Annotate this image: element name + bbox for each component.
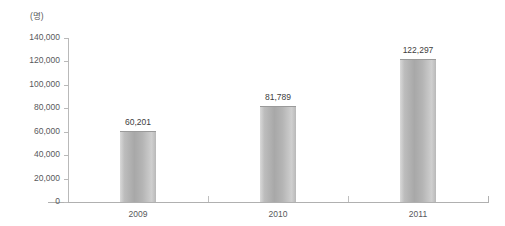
y-axis-tick-label: 40,000 [0, 149, 60, 159]
bar-value-label: 60,201 [98, 117, 178, 127]
y-axis-tick-label: 60,000 [0, 126, 60, 136]
y-axis-tick-label: 140,000 [0, 32, 60, 42]
y-axis-tick-label: 20,000 [0, 173, 60, 183]
bar-chart: (명) 020,00040,00060,00080,000100,000120,… [0, 0, 505, 226]
x-axis-line [48, 202, 488, 203]
bar [400, 59, 436, 202]
x-axis-category-label: 2011 [378, 209, 458, 219]
y-axis-tick-mark [64, 132, 68, 133]
x-axis-category-label: 2009 [98, 209, 178, 219]
y-axis-tick-label: 80,000 [0, 102, 60, 112]
bar-value-label: 81,789 [238, 92, 318, 102]
bar [120, 131, 156, 202]
y-axis-tick-mark [64, 108, 68, 109]
x-axis-category-label: 2010 [238, 209, 318, 219]
y-axis-tick-mark [64, 202, 68, 203]
y-axis-tick-mark [64, 61, 68, 62]
y-axis-tick-mark [64, 38, 68, 39]
x-axis-end-tick [488, 196, 489, 203]
y-axis-tick-label: 100,000 [0, 79, 60, 89]
y-axis-tick-mark [64, 85, 68, 86]
y-axis-tick-mark [64, 155, 68, 156]
bar-value-label: 122,297 [378, 45, 458, 55]
y-axis-tick-label: 0 [0, 196, 60, 206]
y-axis-tick-label: 120,000 [0, 55, 60, 65]
y-axis-line [68, 38, 69, 202]
x-axis-tick-mark [208, 196, 209, 202]
y-axis-unit-label: (명) [30, 9, 44, 21]
bar [260, 106, 296, 202]
y-axis-tick-mark [64, 179, 68, 180]
x-axis-tick-mark [348, 196, 349, 202]
